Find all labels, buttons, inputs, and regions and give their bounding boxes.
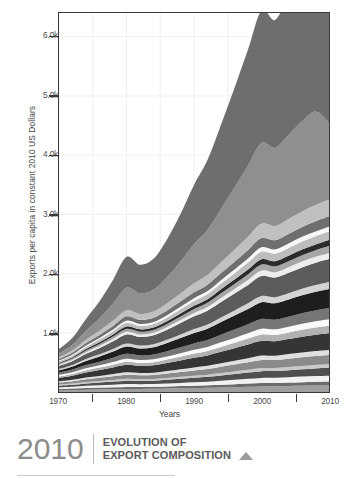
- footer-year: 2010: [17, 434, 93, 464]
- footer-underline: [17, 475, 175, 476]
- footer-divider: [93, 434, 94, 464]
- x-tick-label: 1980: [106, 396, 146, 406]
- footer-title: EVOLUTION OF EXPORT COMPOSITION: [103, 436, 231, 461]
- x-tick-label: 1970: [38, 396, 78, 406]
- stacked-area-chart: Exports per capita in constant 2010 US D…: [0, 0, 339, 418]
- x-minor-tick-mark: [228, 394, 229, 402]
- footer-title-line-2: EXPORT COMPOSITION: [103, 449, 231, 462]
- x-minor-tick-mark: [92, 394, 93, 402]
- footer-title-line-1: EVOLUTION OF: [103, 436, 231, 449]
- figure-footer: 2010 EVOLUTION OF EXPORT COMPOSITION: [0, 430, 339, 478]
- x-tick-label: 2000: [242, 396, 282, 406]
- x-minor-tick-mark: [160, 394, 161, 402]
- footer-title-block: EVOLUTION OF EXPORT COMPOSITION: [103, 434, 253, 461]
- x-axis: Years 19701980199020002010: [0, 0, 339, 418]
- x-axis-title: Years: [0, 409, 339, 419]
- x-tick-label: 2010: [310, 396, 344, 406]
- footer-content: 2010 EVOLUTION OF EXPORT COMPOSITION: [17, 434, 253, 464]
- triangle-up-icon: [239, 452, 253, 460]
- x-tick-label: 1990: [174, 396, 214, 406]
- x-minor-tick-mark: [296, 394, 297, 402]
